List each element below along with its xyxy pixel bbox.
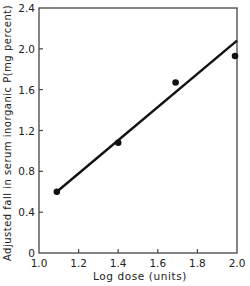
x-axis-label: Log dose (units)	[93, 270, 187, 282]
fit-line	[57, 41, 237, 192]
data-series	[54, 41, 239, 195]
x-tick-label: 1.6	[149, 257, 166, 269]
x-tick-label: 1.4	[110, 257, 127, 269]
plot-border	[39, 8, 237, 253]
data-point	[172, 79, 179, 86]
plot-frame	[39, 8, 237, 253]
chart: 00.40.81.21.62.02.4 1.01.21.41.61.82.0 L…	[0, 0, 250, 286]
x-tick-label: 2.0	[229, 257, 246, 269]
y-tick-label: 0.8	[18, 165, 35, 177]
y-tick-label: 1.6	[18, 84, 35, 96]
y-axis-label: Adjusted fall in serum inorganic P(mg pe…	[2, 5, 13, 261]
y-tick-label: 2.0	[18, 43, 35, 55]
y-tick-label: 1.2	[18, 125, 35, 137]
x-tick-label: 1.8	[189, 257, 206, 269]
x-tick-label: 1.2	[70, 257, 87, 269]
y-tick-label: 0.4	[18, 206, 35, 218]
data-point	[232, 53, 239, 60]
x-tick-label: 1.0	[31, 257, 48, 269]
x-axis-ticks: 1.01.21.41.61.82.0	[31, 249, 246, 269]
y-tick-label: 2.4	[18, 2, 35, 14]
